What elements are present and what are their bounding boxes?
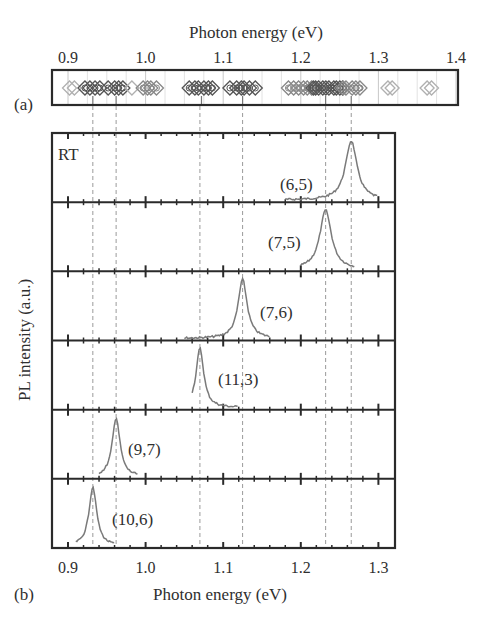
chirality-label: (6,5) <box>280 175 313 194</box>
bottom-tick-label: 1.0 <box>136 559 156 576</box>
y-axis-title: PL intensity (a.u.) <box>15 279 34 401</box>
bottom-axis-title: Photon energy (eV) <box>153 585 287 604</box>
bottom-tick-label: 1.1 <box>213 559 233 576</box>
top-tick-label: 1.4 <box>446 49 466 66</box>
pl-spectrum-curve <box>76 487 114 542</box>
chirality-label: (10,6) <box>112 510 153 529</box>
chirality-label: (7,5) <box>268 233 301 252</box>
panel-a-diamond-markers <box>63 81 439 104</box>
dashed-guide-lines <box>93 106 351 548</box>
bottom-tick-label: 1.3 <box>368 559 388 576</box>
figure: Photon energy (eV) 0.91.01.11.21.31.4 (a… <box>0 0 490 625</box>
top-tick-label: 1.3 <box>368 49 388 66</box>
top-tick-label: 1.1 <box>213 49 233 66</box>
chirality-label: (11,3) <box>218 370 258 389</box>
pl-spectrum-curve <box>184 278 269 339</box>
panel-b-stack: (6,5)(7,5)(7,6)(11,3)(9,7)(10,6) <box>52 133 395 548</box>
top-tick-label: 1.2 <box>291 49 311 66</box>
top-axis-title: Photon energy (eV) <box>189 23 323 42</box>
panel-a-label: (a) <box>14 95 33 114</box>
pl-spectrum-curve <box>301 210 355 267</box>
bottom-axis-tick-labels: 0.91.01.11.21.3 <box>58 559 388 576</box>
panel-b-label: (b) <box>14 585 34 604</box>
top-axis-tick-labels: 0.91.01.11.21.31.4 <box>58 49 466 66</box>
bottom-tick-label: 1.2 <box>291 559 311 576</box>
rt-label: RT <box>58 145 79 164</box>
chirality-label: (7,6) <box>260 303 293 322</box>
chirality-label: (9,7) <box>128 440 161 459</box>
top-tick-label: 1.0 <box>136 49 156 66</box>
bottom-tick-label: 0.9 <box>58 559 78 576</box>
top-tick-label: 0.9 <box>58 49 78 66</box>
